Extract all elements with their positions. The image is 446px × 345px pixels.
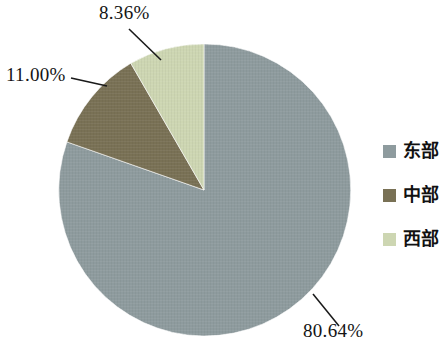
data-label-east: 80.64% bbox=[303, 320, 363, 342]
pie-chart-figure: 8.36% 11.00% 80.64% 东部 中部 西部 bbox=[0, 0, 446, 345]
legend-label-middle: 中部 bbox=[403, 186, 439, 204]
legend-item-east[interactable]: 东部 bbox=[383, 140, 446, 162]
legend-item-middle[interactable]: 中部 bbox=[383, 184, 446, 206]
data-label-middle: 11.00% bbox=[6, 64, 66, 86]
legend-item-west[interactable]: 西部 bbox=[383, 228, 446, 250]
data-label-west: 8.36% bbox=[99, 2, 150, 24]
legend-label-west: 西部 bbox=[403, 230, 439, 248]
chart-legend: 东部 中部 西部 bbox=[383, 140, 446, 272]
legend-swatch-middle-icon bbox=[383, 189, 396, 202]
legend-swatch-west-icon bbox=[383, 233, 396, 246]
leader-line-west bbox=[129, 29, 161, 60]
legend-label-east: 东部 bbox=[403, 142, 439, 160]
leader-line-middle bbox=[71, 78, 107, 86]
pie-chart-canvas bbox=[0, 0, 446, 345]
legend-swatch-east-icon bbox=[383, 145, 396, 158]
